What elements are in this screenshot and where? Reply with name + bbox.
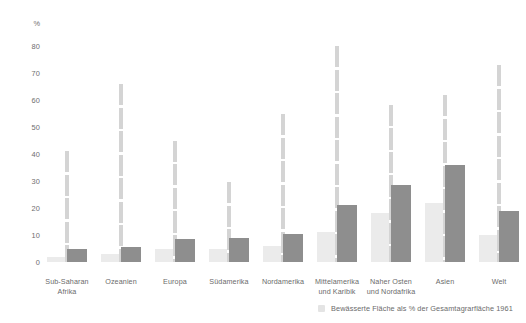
bar-groups: Sub-SaharanAfrikaOzeanienEuropaSüdamerik… <box>40 0 526 323</box>
bar-light-1961 <box>479 235 499 262</box>
x-axis-category-label-line: und Nordafrika <box>364 287 418 297</box>
x-axis-category-label: Naher Ostenund Nordafrika <box>364 277 418 296</box>
square-swatch-icon <box>318 305 325 312</box>
bar-dark-current <box>283 234 303 262</box>
bar-riser <box>65 151 69 262</box>
bar-dark-current <box>229 238 249 262</box>
x-axis-category-label-line: Mittelamerika <box>310 277 364 287</box>
bar-dark-current <box>391 185 411 262</box>
x-axis-category-label-line: Ozeanien <box>94 277 148 287</box>
y-axis-tick-70: 70 <box>6 70 40 78</box>
x-axis-category-label: Nordamerika <box>256 277 310 287</box>
y-axis-unit-label: % <box>6 20 40 28</box>
x-axis-category-label-line: Naher Osten <box>364 277 418 287</box>
x-axis-category-label-line: Sub-Saharan <box>40 277 94 287</box>
bar-light-1961 <box>317 232 337 262</box>
bar-group: Ozeanien <box>94 0 148 323</box>
x-axis-category-label-line: und Karibik <box>310 287 364 297</box>
y-axis-tick-10: 10 <box>6 232 40 240</box>
legend: Bewässerte Fläche als % der Gesamtagrarf… <box>318 304 513 313</box>
bar-light-1961 <box>371 213 391 262</box>
bar-group: Europa <box>148 0 202 323</box>
x-axis-category-label: Südamerika <box>202 277 256 287</box>
bar-light-1961 <box>263 246 283 262</box>
bar-dark-current <box>67 249 87 263</box>
bar-light-1961 <box>209 249 229 263</box>
x-axis-category-label-line: Afrika <box>40 287 94 297</box>
x-axis-category-label: Sub-SaharanAfrika <box>40 277 94 296</box>
y-axis-tick-40: 40 <box>6 151 40 159</box>
bar-light-1961 <box>47 257 67 262</box>
y-axis-tick-60: 60 <box>6 97 40 105</box>
bar-group: Sub-SaharanAfrika <box>40 0 94 323</box>
y-axis-tick-30: 30 <box>6 178 40 186</box>
bar-light-1961 <box>155 249 175 263</box>
x-axis-category-label-line: Südamerika <box>202 277 256 287</box>
x-axis-category-label-line: Europa <box>148 277 202 287</box>
y-axis-tick-20: 20 <box>6 205 40 213</box>
bar-dark-current <box>445 165 465 262</box>
bar-dark-current <box>175 239 195 262</box>
x-axis-category-label: Europa <box>148 277 202 287</box>
x-axis-category-label: Asien <box>418 277 472 287</box>
bar-dark-current <box>121 247 141 262</box>
bar-group: Welt <box>472 0 526 323</box>
bar-group: Südamerika <box>202 0 256 323</box>
y-axis-tick-50: 50 <box>6 124 40 132</box>
bar-group: Naher Ostenund Nordafrika <box>364 0 418 323</box>
y-axis: % 80 70 60 50 40 30 20 10 0 <box>0 0 40 323</box>
y-axis-tick-80: 80 <box>6 43 40 51</box>
bar-dark-current <box>499 211 519 262</box>
plot-area: Sub-SaharanAfrikaOzeanienEuropaSüdamerik… <box>40 0 526 323</box>
x-axis-category-label-line: Nordamerika <box>256 277 310 287</box>
bar-dark-current <box>337 205 357 262</box>
bar-group: Mittelamerikaund Karibik <box>310 0 364 323</box>
bar-riser <box>119 84 123 262</box>
x-axis-category-label-line: Welt <box>472 277 526 287</box>
chart-container: % 80 70 60 50 40 30 20 10 0 Sub-SaharanA… <box>0 0 526 323</box>
bar-light-1961 <box>425 203 445 262</box>
bar-light-1961 <box>101 254 121 262</box>
x-axis-category-label-line: Asien <box>418 277 472 287</box>
bar-group: Nordamerika <box>256 0 310 323</box>
legend-item-label: Bewässerte Fläche als % der Gesamtagrarf… <box>331 304 513 313</box>
y-axis-tick-0: 0 <box>6 259 40 267</box>
x-axis-category-label: Welt <box>472 277 526 287</box>
x-axis-category-label: Mittelamerikaund Karibik <box>310 277 364 296</box>
x-axis-category-label: Ozeanien <box>94 277 148 287</box>
bar-group: Asien <box>418 0 472 323</box>
